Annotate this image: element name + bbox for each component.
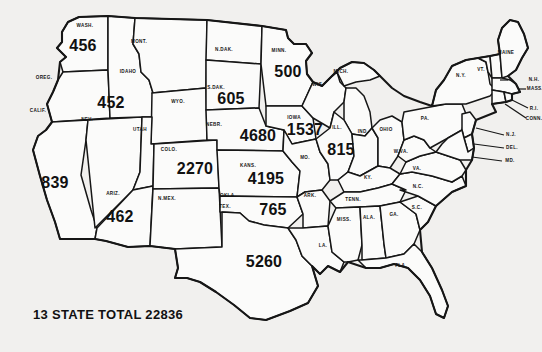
state-abbr-md: MD. (505, 159, 514, 164)
state-abbr-wash: WASH. (77, 24, 94, 29)
state-value-iowa: 1537 (287, 122, 323, 138)
state-value-colorado: 2270 (177, 161, 213, 177)
state-shape-mississippi (328, 207, 362, 262)
state-abbr-idaho: IDAHO (120, 70, 137, 75)
state-abbr-wva: W.VA. (394, 150, 408, 155)
state-abbr-wis: WIS. (312, 83, 323, 88)
state-value-washington: 456 (69, 38, 96, 54)
state-value-texas: 5260 (246, 254, 282, 270)
state-abbr-conn: CONN. (526, 117, 542, 122)
state-value-california: 839 (41, 175, 68, 191)
state-abbr-utah: UTAH (133, 128, 147, 133)
state-abbr-mass: MASS. (527, 87, 542, 92)
state-abbr-ohio: OHIO (379, 128, 392, 133)
state-abbr-del: DEL. (506, 146, 518, 151)
state-value-southdakota: 605 (217, 91, 244, 107)
state-abbr-ariz: ARIZ. (106, 192, 120, 197)
state-abbr-nc: N.C. (413, 185, 424, 190)
state-abbr-ark: ARK. (304, 194, 317, 199)
state-abbr-mo: MO. (300, 156, 310, 161)
state-abbr-ga: GA. (389, 213, 398, 218)
state-abbr-ill: ILL. (332, 126, 342, 131)
state-abbr-okla: OKLA. (220, 194, 236, 199)
state-shape-wyoming (151, 88, 207, 144)
state-abbr-la: LA. (319, 244, 327, 249)
us-map-figure: 456 452 839 462 2270 605 500 4680 1537 4… (0, 0, 542, 352)
state-abbr-oreg: OREG. (36, 76, 53, 81)
state-shape-northdakota (206, 20, 262, 64)
state-abbr-iowa: IOWA (287, 116, 301, 121)
state-abbr-fla: FLA. (395, 264, 407, 269)
state-abbr-wyo: WYO. (171, 100, 185, 105)
leader-line-ri (512, 100, 528, 108)
state-value-nebraska: 4680 (240, 128, 276, 144)
state-abbr-pa: PA. (421, 117, 429, 122)
state-abbr-ny: N.Y. (456, 74, 466, 79)
state-abbr-nj: N.J. (506, 133, 516, 138)
state-value-oklahoma: 765 (259, 202, 286, 218)
state-abbr-miss: MISS. (337, 218, 351, 223)
leader-line-conn (505, 104, 526, 118)
state-abbr-ky: KY. (364, 176, 372, 181)
total-caption: 13 STATE TOTAL 22836 (33, 307, 183, 322)
state-abbr-minn: MINN. (272, 49, 287, 54)
state-abbr-tex: TEX. (219, 205, 231, 210)
state-abbr-colo: COLO. (161, 148, 177, 153)
state-abbr-ala: ALA. (363, 216, 375, 221)
state-abbr-vt: VT. (477, 68, 485, 73)
state-value-arizona: 462 (106, 209, 133, 225)
state-value-idaho: 452 (97, 95, 124, 111)
state-abbr-nmex: N.MEX. (158, 197, 176, 202)
state-abbr-maine: MAINE (498, 51, 515, 56)
state-abbr-tenn: TENN. (345, 198, 361, 203)
state-abbr-mich: MICH. (334, 70, 349, 75)
state-abbr-sc: S.C. (412, 206, 422, 211)
state-abbr-sdak: S.DAK. (207, 86, 225, 91)
state-abbr-va: VA. (413, 167, 421, 172)
state-abbr-mont: MONT. (131, 40, 147, 45)
state-abbr-nebr: NEBR. (206, 123, 222, 128)
state-value-kansas: 4195 (248, 171, 284, 187)
leader-line-del (474, 144, 504, 148)
state-abbr-kans: KANS. (240, 164, 256, 169)
state-abbr-ndak: N.DAK. (215, 48, 233, 53)
state-value-minnesota: 500 (274, 64, 301, 80)
leader-line-md (472, 157, 502, 161)
leader-line-nj (476, 128, 504, 135)
state-abbr-nh: N.H. (529, 78, 540, 83)
state-value-illinois: 815 (327, 142, 354, 158)
state-abbr-ind: IND. (358, 130, 369, 135)
state-abbr-ri: R.I. (530, 107, 539, 112)
state-abbr-calif: CALIF. (30, 109, 46, 114)
state-abbr-nev: NEV. (81, 118, 93, 123)
